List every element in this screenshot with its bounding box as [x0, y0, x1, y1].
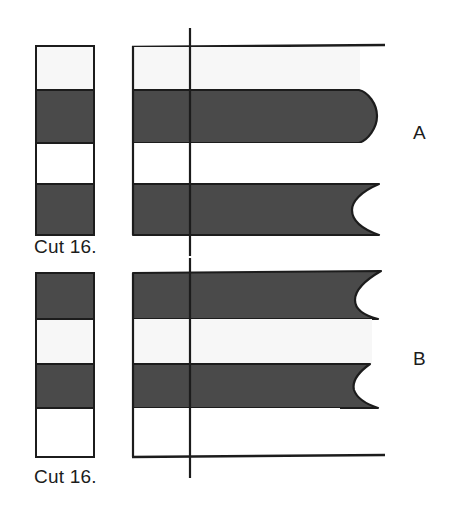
cut16-diagram-svg	[0, 0, 456, 516]
key-band-a-0	[36, 46, 94, 90]
panel-b	[36, 258, 385, 478]
panel-b-profile-band-2	[133, 364, 378, 408]
figure-root: Cut 16. Cut 16. A B	[0, 0, 456, 516]
cut-label-panel-b: Cut 16.	[34, 466, 97, 488]
panel-letter-b: B	[413, 348, 426, 370]
panel-b-profile-band-3	[133, 408, 340, 457]
panel-a-profile-band-0	[132, 47, 360, 90]
key-band-a-1	[36, 90, 94, 143]
key-band-b-1	[36, 319, 94, 364]
key-band-b-0	[36, 273, 94, 319]
panel-b-key-column	[36, 273, 94, 457]
panel-a-profile-band-1	[133, 90, 377, 143]
key-band-b-3	[36, 408, 94, 457]
key-band-a-2	[36, 143, 94, 184]
panel-letter-a: A	[413, 122, 426, 144]
cut-label-panel-a: Cut 16.	[34, 236, 97, 258]
panel-a-profile-band-3	[133, 184, 379, 235]
panel-a-top-rule	[132, 45, 385, 47]
key-band-b-2	[36, 364, 94, 408]
panel-a	[36, 28, 385, 256]
panel-a-key-column	[36, 46, 94, 235]
panel-b-profile-band-1	[133, 319, 372, 364]
panel-a-profile-band-2	[133, 143, 365, 184]
key-band-a-3	[36, 184, 94, 235]
panel-b-profile-band-0	[133, 271, 381, 319]
